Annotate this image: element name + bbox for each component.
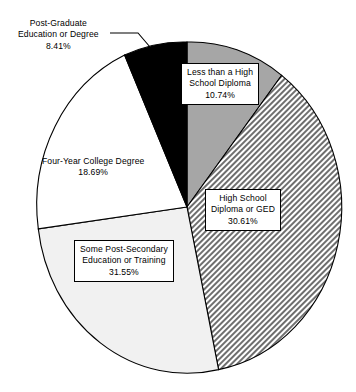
pie-chart-graphic bbox=[0, 0, 356, 392]
pie-slice-some-post-secondary bbox=[38, 207, 218, 373]
slice-label-four-year-college-degree: Four-Year College Degree 18.69% bbox=[42, 156, 144, 179]
slice-label-line: High School bbox=[211, 193, 275, 204]
slice-label-line: School Diploma bbox=[187, 78, 253, 89]
slice-label-line: Education or Degree bbox=[18, 29, 99, 40]
slice-label-high-school-diploma-ged: High School Diploma or GED 30.61% bbox=[205, 189, 281, 231]
slice-label-line: Education or Training bbox=[80, 255, 168, 266]
slice-label-post-graduate: Post-Graduate Education or Degree 8.41% bbox=[18, 18, 99, 52]
slice-value: 8.41% bbox=[18, 41, 99, 52]
slice-label-line: Less than a High bbox=[187, 67, 253, 78]
slice-label-line: Post-Graduate bbox=[18, 18, 99, 29]
slice-value: 10.74% bbox=[187, 90, 253, 101]
slice-value: 31.55% bbox=[80, 267, 168, 278]
slice-value: 18.69% bbox=[42, 167, 144, 178]
slice-label-line: Some Post-Secondary bbox=[80, 244, 168, 255]
slice-label-some-post-secondary: Some Post-Secondary Education or Trainin… bbox=[74, 240, 174, 282]
slice-label-line: Four-Year College Degree bbox=[42, 156, 144, 167]
pie-chart: Post-Graduate Education or Degree 8.41% … bbox=[0, 0, 356, 392]
slice-label-line: Diploma or GED bbox=[211, 204, 275, 215]
slice-value: 30.61% bbox=[211, 216, 275, 227]
slice-label-less-than-high-school: Less than a High School Diploma 10.74% bbox=[181, 63, 259, 105]
